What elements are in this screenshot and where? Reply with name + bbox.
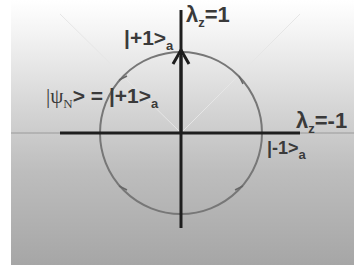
bloch-diagram: [0, 0, 363, 274]
psi-state-label: |ψN> = |+1>a: [46, 84, 158, 112]
ket-plus-label: |+1>a: [124, 26, 173, 53]
lambda-z-plus-label: λz=1: [186, 2, 230, 30]
lambda-z-minus-label: λz=-1: [296, 108, 347, 136]
ket-minus-label: |-1>a: [267, 138, 306, 162]
diagonal-line-right: [181, 14, 300, 133]
